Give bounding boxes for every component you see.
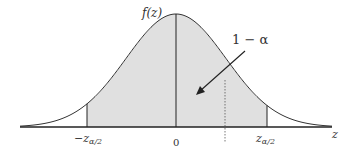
area-label: 1 − α (232, 32, 268, 47)
shaded-area (87, 14, 267, 127)
tick-neg-critical: −zα/2 (74, 132, 102, 146)
tick-pos-critical: zα/2 (255, 132, 275, 146)
x-axis-label: z (331, 128, 338, 141)
normal-curve-diagram: f(z) 1 − α z −zα/2 0 zα/2 (0, 0, 352, 153)
y-axis-label: f(z) (141, 6, 162, 20)
tick-zero: 0 (173, 137, 179, 148)
